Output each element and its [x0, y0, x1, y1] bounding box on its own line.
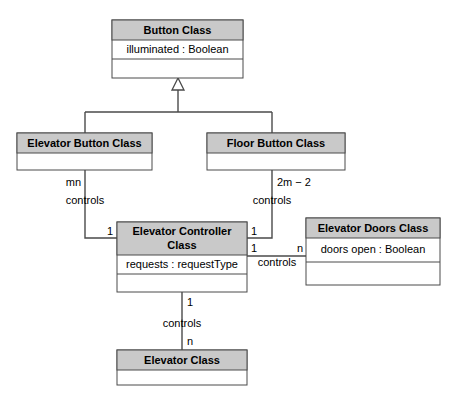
class-name-button-class: Button Class	[144, 24, 212, 36]
association-label-controls-floor-button: controls	[253, 194, 292, 206]
multiplicity-doors-n: n	[297, 242, 303, 254]
uml-canvas: mn controls 1 2m − 2 controls 1 1 contro…	[0, 0, 449, 395]
class-box-elevator-class[interactable]: Elevator Class	[117, 350, 247, 385]
class-name-floor-button-class: Floor Button Class	[227, 137, 325, 149]
class-box-elevator-doors-class[interactable]: Elevator Doors Class doors open : Boolea…	[306, 218, 440, 285]
class-name-elevator-doors-class: Elevator Doors Class	[318, 222, 429, 234]
class-box-button-class[interactable]: Button Class illuminated : Boolean	[112, 20, 243, 78]
inheritance-triangle-icon	[172, 78, 184, 90]
uml-class-diagram: mn controls 1 2m − 2 controls 1 1 contro…	[0, 0, 449, 395]
class-name-elevator-button-class: Elevator Button Class	[27, 137, 141, 149]
class-box-floor-button-class[interactable]: Floor Button Class	[207, 133, 345, 170]
association-label-controls-elevator: controls	[163, 317, 202, 329]
association-controller-doors: 1 controls n	[247, 242, 306, 268]
association-label-controls-elevator-button: controls	[66, 194, 105, 206]
class-box-elevator-button-class[interactable]: Elevator Button Class	[17, 133, 152, 170]
multiplicity-controller-right-upper-1: 1	[251, 225, 257, 237]
association-label-controls-doors: controls	[258, 256, 297, 268]
class-attribute-requests: requests : requestType	[126, 258, 238, 270]
generalization-button-class	[85, 78, 272, 133]
multiplicity-controller-bottom-1: 1	[187, 296, 193, 308]
association-controller-elevator: 1 controls n	[163, 292, 202, 350]
class-name-elevator-class: Elevator Class	[144, 354, 220, 366]
class-attribute-illuminated: illuminated : Boolean	[126, 43, 228, 55]
association-elevator-button-controller: mn controls 1	[66, 170, 117, 238]
class-name-elevator-controller-class-line1: Elevator Controller	[132, 225, 232, 237]
class-attribute-doors-open: doors open : Boolean	[321, 243, 426, 255]
multiplicity-controller-left-1: 1	[107, 225, 113, 237]
multiplicity-elevator-n: n	[187, 335, 193, 347]
class-box-elevator-controller-class[interactable]: Elevator Controller Class requests : req…	[117, 222, 247, 292]
multiplicity-elevator-button-mn: mn	[66, 176, 81, 188]
class-name-elevator-controller-class-line2: Class	[167, 239, 196, 251]
multiplicity-floor-button-2m-minus-2: 2m − 2	[277, 176, 311, 188]
association-floor-button-controller: 2m − 2 controls 1	[247, 170, 311, 238]
multiplicity-controller-right-lower-1: 1	[251, 242, 257, 254]
